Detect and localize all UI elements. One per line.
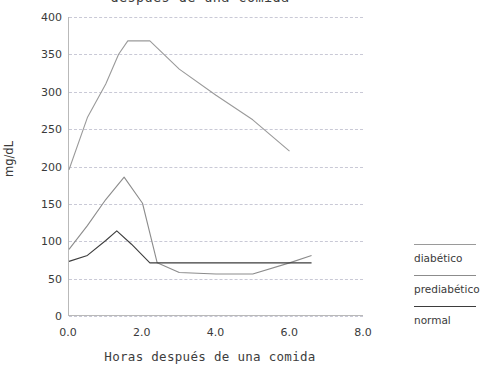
x-axis-tick-label: 0.0 (43, 326, 93, 339)
y-axis-tick-label: 250 (8, 123, 62, 136)
x-axis-ticks: 0.02.04.06.08.0 (68, 326, 363, 342)
x-axis-tick-label: 4.0 (191, 326, 241, 339)
legend-entry[interactable]: prediabético (414, 275, 481, 295)
series-line-prediabético (69, 177, 312, 274)
x-axis-tick-label: 6.0 (264, 326, 314, 339)
y-axis-tick-label: 100 (8, 235, 62, 248)
y-axis-label: mg/dL (2, 129, 16, 189)
legend-label: prediabético (414, 283, 481, 295)
y-axis-tick-label: 300 (8, 85, 62, 98)
legend-label: normal (414, 314, 481, 326)
chart-legend: diabéticoprediabéticonormal (414, 244, 481, 337)
y-axis-tick-label: 350 (8, 48, 62, 61)
x-axis-tick-label: 8.0 (338, 326, 388, 339)
y-axis-tick-label: 150 (8, 197, 62, 210)
chart-container: después de una comida 050100150200250300… (0, 0, 481, 373)
y-axis-tick-label: 400 (8, 11, 62, 24)
y-axis-tick-label: 50 (8, 272, 62, 285)
plot-area (68, 17, 363, 316)
x-axis-label: Horas después de una comida (0, 349, 420, 364)
legend-color-swatch (414, 275, 476, 276)
chart-title: después de una comida (0, 0, 400, 5)
legend-color-swatch (414, 244, 476, 245)
legend-label: diabético (414, 252, 481, 264)
series-line-diabético (69, 41, 290, 170)
x-axis-tick-label: 2.0 (117, 326, 167, 339)
legend-color-swatch (414, 306, 476, 307)
series-line-normal (69, 231, 312, 263)
legend-entry[interactable]: normal (414, 306, 481, 326)
series-lines (69, 17, 363, 315)
y-axis-tick-label: 200 (8, 160, 62, 173)
y-axis-tick-label: 0 (8, 310, 62, 323)
gridline (69, 316, 363, 317)
legend-entry[interactable]: diabético (414, 244, 481, 264)
